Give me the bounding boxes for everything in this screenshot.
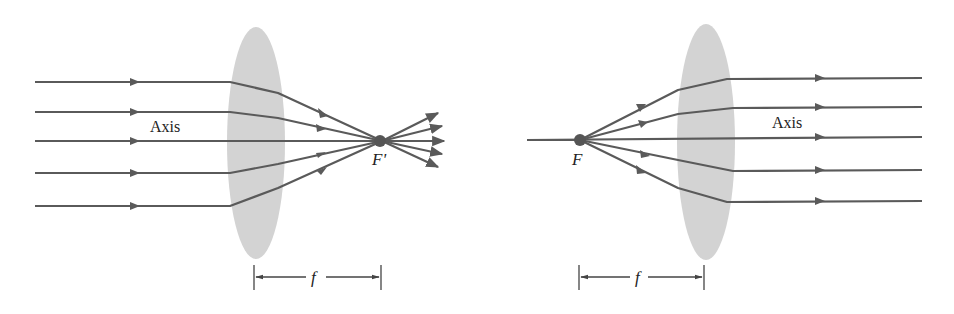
lens-diagram: Axis F' f [0, 0, 954, 314]
focal-point-dot-left [374, 135, 386, 147]
focal-length-dimension-left: f [254, 265, 381, 290]
right-panel: Axis F f [527, 24, 922, 290]
axis-label-right: Axis [772, 114, 802, 131]
diverging-rays-after-focus [382, 113, 444, 167]
focal-length-label-left: f [311, 268, 318, 287]
focal-point-label-left: F' [371, 150, 386, 169]
incoming-rays-left [35, 82, 382, 206]
focal-length-dimension-right: f [579, 265, 704, 290]
converging-lens-left [227, 27, 285, 259]
axis-label-left: Axis [150, 118, 180, 135]
focal-point-label-right: F [571, 150, 583, 169]
left-panel: Axis F' f [35, 27, 444, 290]
focal-point-dot-right [574, 134, 586, 146]
focal-length-label-right: f [635, 268, 642, 287]
converging-lens-right [677, 24, 735, 260]
